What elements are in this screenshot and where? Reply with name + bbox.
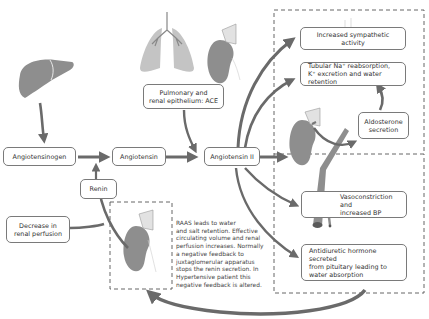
decrease-perfusion-box: Decrease in renal perfusion [6,216,70,243]
ace-box: Pulmonary and renal epithelium: ACE [143,84,224,109]
kidney-icon [124,210,157,272]
kidney-icon [208,24,241,83]
aldosterone-box: Aldosterone secretion [358,112,409,139]
renin-box: Renin [80,179,117,199]
angiotensinogen-box: Angiotensinogen [3,147,76,166]
lungs-icon [140,12,194,72]
feedback-note: RAAS leads to water and salt retention. … [176,220,276,289]
sympathetic-activity-box: Increased sympathetic activity [300,27,406,50]
liver-icon [19,60,74,98]
tubular-reabsorption-box: Tubular Na⁺ reabsorption, K⁺ excretion a… [300,62,406,86]
adrenal-gland-icon [290,108,321,165]
angiotensin-ii-box: Angiotensin II [204,147,260,166]
vasoconstriction-box: Vasoconstriction and increased BP [301,191,407,218]
angiotensin-box: Angiotensin [112,147,166,166]
adh-box: Antidiuretic hormone secreted from pitui… [301,244,407,281]
